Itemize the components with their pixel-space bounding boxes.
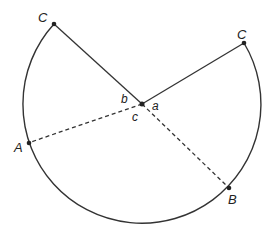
point-c-left — [52, 22, 57, 27]
angle-label-b: b — [121, 92, 128, 106]
angle-label-c: c — [132, 110, 138, 124]
diagram-canvas: C C A B a b c — [0, 0, 270, 235]
point-b — [227, 186, 232, 191]
dashed-radius-to-b — [142, 104, 229, 188]
dashed-radius-to-a — [28, 104, 142, 143]
point-a — [27, 141, 32, 146]
label-c-right: C — [237, 27, 247, 42]
center-point — [140, 102, 145, 107]
angle-label-a: a — [152, 99, 159, 113]
label-c-left: C — [38, 10, 48, 25]
radius-to-right-c — [142, 43, 244, 104]
label-b: B — [228, 192, 237, 207]
radius-to-left-c — [54, 24, 142, 104]
label-a: A — [13, 140, 23, 155]
